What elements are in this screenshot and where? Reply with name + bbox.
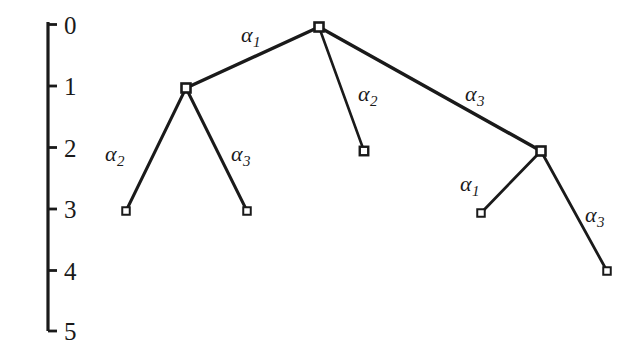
edge-label-symbol: α xyxy=(460,171,472,196)
tree-node-n2 xyxy=(537,147,546,156)
tree-edge-n2-leaf-d xyxy=(481,151,541,213)
edge-label-label-root-n2: α3 xyxy=(465,83,485,109)
tree-edge-n1-leaf-a xyxy=(126,88,186,211)
edge-label-subscript: 2 xyxy=(117,153,125,169)
tree-edge-root-n2 xyxy=(319,27,541,151)
edge-label-symbol: α xyxy=(358,81,370,106)
tree-node-leaf-b xyxy=(243,207,251,215)
tree-node-leaf-c xyxy=(360,147,369,156)
figure-canvas: 012345 α1α2α3α2α3α1α3 xyxy=(0,0,643,354)
edge-label-label-n2-leaf-d: α1 xyxy=(460,173,480,199)
edge-label-subscript: 2 xyxy=(370,93,378,109)
edge-label-symbol: α xyxy=(465,81,477,106)
depth-axis xyxy=(48,22,57,331)
edge-label-label-n2-leaf-e: α3 xyxy=(585,204,605,230)
tree-node-leaf-a xyxy=(122,207,130,215)
tree-node-root xyxy=(315,23,324,32)
axis-tick-label-0: 0 xyxy=(64,12,77,37)
axis-tick-label-1: 1 xyxy=(64,74,77,99)
tree-node-leaf-e xyxy=(603,267,611,275)
edge-label-label-root-n1: α1 xyxy=(241,24,261,50)
edge-label-symbol: α xyxy=(241,22,253,47)
edge-label-symbol: α xyxy=(585,202,597,227)
tree-node-n1 xyxy=(182,84,191,93)
tree-nodes xyxy=(122,23,611,275)
edge-label-subscript: 1 xyxy=(253,34,261,50)
edge-label-subscript: 3 xyxy=(243,153,251,169)
edge-label-label-n1-leaf-b: α3 xyxy=(231,143,251,169)
edge-label-label-n1-leaf-a: α2 xyxy=(105,143,125,169)
edge-label-subscript: 3 xyxy=(597,214,605,230)
edge-label-subscript: 1 xyxy=(472,183,480,199)
tree-node-leaf-d xyxy=(477,209,485,217)
axis-tick-label-3: 3 xyxy=(64,197,77,222)
axis-tick-label-4: 4 xyxy=(64,258,77,283)
axis-tick-label-2: 2 xyxy=(64,135,77,160)
edge-label-symbol: α xyxy=(105,141,117,166)
edge-label-label-root-leaf-c: α2 xyxy=(358,83,378,109)
tree-diagram-svg xyxy=(0,0,643,354)
edge-label-subscript: 3 xyxy=(477,93,485,109)
edge-label-symbol: α xyxy=(231,141,243,166)
axis-tick-label-5: 5 xyxy=(64,319,77,344)
